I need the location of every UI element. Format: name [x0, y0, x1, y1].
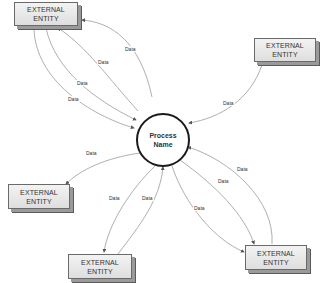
flow-label: Data	[124, 46, 137, 52]
entity-line1: EXTERNAL	[20, 188, 58, 197]
process-line2: Name	[153, 140, 172, 149]
entity-line1: EXTERNAL	[266, 41, 304, 50]
entity-line2: ENTITY	[81, 267, 119, 276]
flow-label: Data	[193, 205, 206, 211]
flow-label: Data	[67, 96, 80, 102]
flow-label: Data	[217, 178, 230, 184]
entity-line1: EXTERNAL	[27, 5, 65, 14]
flow-label: Data	[236, 166, 249, 172]
flow-process-to-bottomright-2	[180, 160, 254, 244]
flow-label: Data	[222, 100, 235, 106]
flow-process-to-bottomright-1	[172, 166, 244, 252]
external-entity-bottom-center[interactable]: EXTERNALENTITY	[68, 254, 132, 279]
flow-label: Data	[85, 150, 98, 156]
external-entity-top-right[interactable]: EXTERNALENTITY	[254, 38, 316, 62]
flow-topleft-to-process-1	[46, 28, 136, 120]
entity-line2: ENTITY	[20, 197, 58, 206]
flow-topleft-to-process-2	[34, 28, 134, 128]
flow-label: Data	[141, 195, 154, 201]
external-entity-top-left[interactable]: EXTERNALENTITY	[14, 2, 78, 26]
process-line1: Process	[149, 131, 176, 140]
flow-label: Data	[76, 80, 89, 86]
entity-line2: ENTITY	[266, 50, 304, 59]
flow-process-to-midleft	[66, 153, 140, 184]
entity-line1: EXTERNAL	[257, 249, 295, 258]
process-node[interactable]: Process Name	[136, 113, 190, 167]
flow-label: Data	[108, 195, 121, 201]
external-entity-bottom-right[interactable]: EXTERNALENTITY	[245, 245, 307, 270]
external-entity-mid-left[interactable]: EXTERNALENTITY	[8, 184, 70, 209]
flow-label: Data	[97, 59, 110, 65]
flow-bottomcenter-to-process	[118, 167, 163, 254]
entity-line2: ENTITY	[257, 258, 295, 267]
entity-line1: EXTERNAL	[81, 258, 119, 267]
flow-bottomright-to-process	[188, 147, 272, 244]
flow-topright-to-process	[189, 65, 262, 123]
entity-line2: ENTITY	[27, 14, 65, 23]
